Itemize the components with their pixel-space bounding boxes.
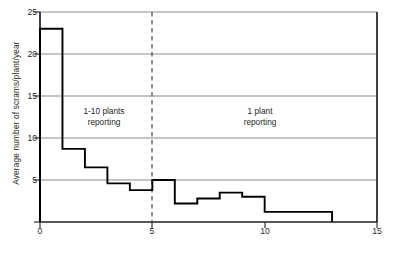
plot-area xyxy=(0,0,413,268)
annotation-left-region: 1-10 plants reporting xyxy=(52,106,156,127)
gridlines xyxy=(40,12,377,180)
x-axis-ticks xyxy=(40,222,377,228)
chart-figure: Average number of scrams/plant/year 25 2… xyxy=(0,0,413,268)
annotation-right-region: 1 plant reporting xyxy=(208,106,312,127)
